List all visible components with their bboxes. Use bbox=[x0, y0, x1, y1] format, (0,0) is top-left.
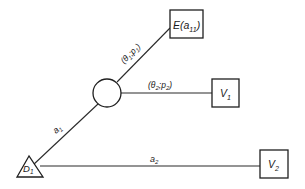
decision-tree-diagram: E(a11) V1 V2 D1 a1 a2 (θ1;p1) (θ2;p2) bbox=[0, 0, 305, 189]
outcome-e-label: E(a bbox=[173, 19, 190, 31]
outcome-v1-subscript: 1 bbox=[227, 94, 231, 101]
outcome-node-v1: V1 bbox=[212, 79, 239, 107]
outcome-node-e: E(a11) bbox=[170, 10, 203, 38]
edge-theta2-label: (θ2;p2) bbox=[148, 80, 172, 91]
edge-a2-label: a2 bbox=[150, 154, 159, 165]
outcome-e-subscript: 11 bbox=[189, 26, 196, 33]
edge-a1 bbox=[33, 104, 98, 165]
chance-node bbox=[93, 79, 121, 107]
edge-a1-label: a1 bbox=[51, 122, 65, 136]
decision-subscript: 1 bbox=[30, 168, 34, 175]
svg-text:E(a11): E(a11) bbox=[173, 19, 200, 33]
outcome-v2-subscript: 2 bbox=[274, 165, 279, 172]
outcome-node-v2: V2 bbox=[260, 150, 288, 178]
edge-theta1-label: (θ1;p1) bbox=[118, 41, 143, 66]
